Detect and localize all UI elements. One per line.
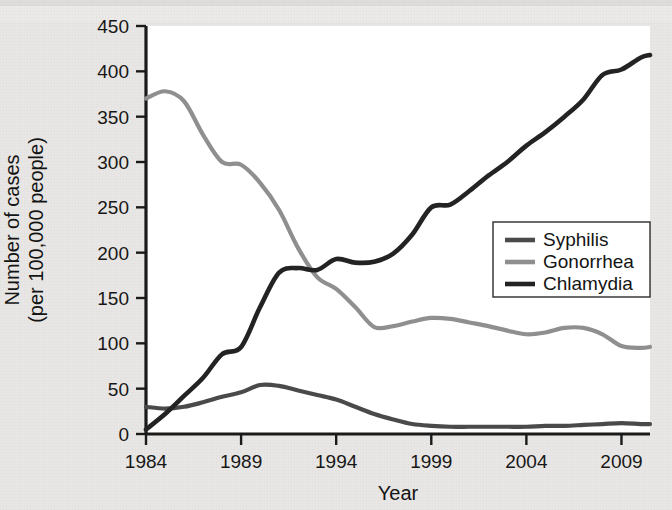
x-tick-label: 1994 [315,451,358,472]
legend-label-chlamydia: Chlamydia [543,273,633,294]
y-tick-label: 0 [118,424,129,445]
y-tick-label: 350 [97,107,129,128]
y-tick-label: 300 [97,152,129,173]
y-axis-title-line2: (per 100,000 people) [25,137,47,323]
legend: SyphilisGonorrheaChlamydia [493,222,650,297]
line-chart: 0501001502002503003504004501984198919941… [0,0,672,510]
x-axis-title: Year [378,482,419,504]
y-tick-label: 150 [97,288,129,309]
figure-background: 0501001502002503003504004501984198919941… [0,0,672,510]
legend-label-syphilis: Syphilis [543,229,608,250]
y-tick-label: 450 [97,16,129,37]
y-tick-label: 50 [108,379,129,400]
x-tick-label: 1984 [125,451,168,472]
x-tick-label: 1989 [220,451,262,472]
legend-label-gonorrhea: Gonorrhea [543,251,634,272]
y-axis-title: Number of cases(per 100,000 people) [1,137,47,323]
x-tick-label: 1999 [410,451,452,472]
y-tick-label: 100 [97,333,129,354]
y-tick-label: 250 [97,197,129,218]
y-tick-label: 200 [97,243,129,264]
x-tick-label: 2009 [600,451,642,472]
y-axis-title-line1: Number of cases [1,154,23,305]
x-tick-label: 2004 [505,451,548,472]
y-tick-label: 400 [97,61,129,82]
